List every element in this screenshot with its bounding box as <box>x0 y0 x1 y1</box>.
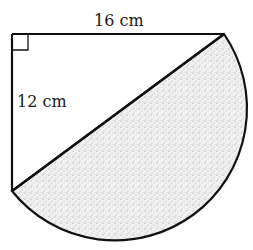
top-side-label: 16 cm <box>94 11 144 30</box>
shaded-semicircle <box>12 34 247 240</box>
left-side-label: 12 cm <box>17 92 67 111</box>
right-angle-marker <box>12 34 28 50</box>
geometry-figure: 16 cm 12 cm <box>0 0 253 250</box>
